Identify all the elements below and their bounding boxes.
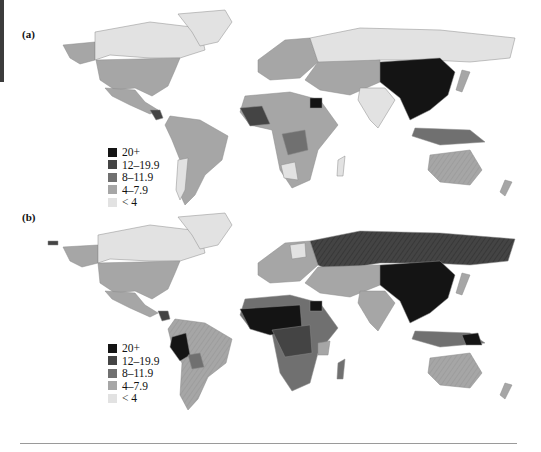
world-map-a: [0, 0, 541, 205]
legend-swatch-12-19: [108, 160, 117, 169]
map-panel-a: (a) 20+ 12–19.9 8–11.9 4–7.9 < 4: [0, 0, 541, 205]
legend-swatch-4-7: [108, 381, 117, 390]
legend-swatch-lt4: [108, 394, 117, 403]
map-panel-b: (b) 20+ 12–19.9 8–11.9 4–7.9 < 4: [0, 205, 541, 420]
legend-swatch-20plus: [108, 344, 117, 353]
world-map-b: [0, 205, 541, 420]
legend-swatch-12-19: [108, 356, 117, 365]
legend-label: 8–11.9: [122, 367, 153, 380]
legend-item: 8–11.9: [108, 171, 159, 184]
legend-swatch-8-11: [108, 173, 117, 182]
legend-b: 20+ 12–19.9 8–11.9 4–7.9 < 4: [108, 342, 159, 405]
legend-label: < 4: [122, 392, 137, 405]
legend-label: 8–11.9: [122, 171, 153, 184]
legend-item: 8–11.9: [108, 367, 159, 380]
legend-label: 4–7.9: [122, 380, 148, 393]
legend-label: 20+: [122, 342, 140, 355]
bottom-divider: [20, 443, 517, 444]
legend-item: 12–19.9: [108, 159, 159, 172]
legend-label: 12–19.9: [122, 159, 159, 172]
legend-swatch-20plus: [108, 148, 117, 157]
legend-item: < 4: [108, 392, 159, 405]
legend-item: 20+: [108, 342, 159, 355]
legend-item: 4–7.9: [108, 380, 159, 393]
legend-label: 12–19.9: [122, 355, 159, 368]
panel-label-b: (b): [22, 211, 35, 223]
legend-a: 20+ 12–19.9 8–11.9 4–7.9 < 4: [108, 146, 159, 209]
legend-item: 4–7.9: [108, 184, 159, 197]
legend-label: 20+: [122, 146, 140, 159]
panel-label-a: (a): [22, 28, 35, 40]
legend-swatch-8-11: [108, 369, 117, 378]
legend-swatch-4-7: [108, 185, 117, 194]
legend-label: 4–7.9: [122, 184, 148, 197]
legend-item: 20+: [108, 146, 159, 159]
legend-item: 12–19.9: [108, 355, 159, 368]
